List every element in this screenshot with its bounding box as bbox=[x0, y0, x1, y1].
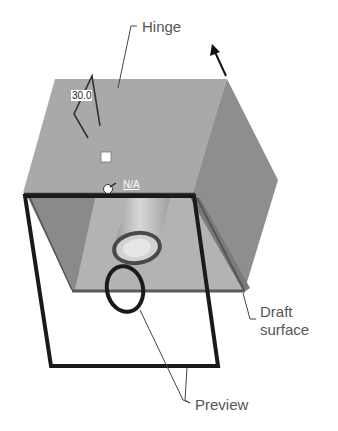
top-face bbox=[23, 79, 227, 193]
draft-angle-value[interactable]: 30.0 bbox=[71, 90, 92, 101]
preview-label: Preview bbox=[195, 396, 248, 413]
preview-leader-2 bbox=[185, 368, 190, 403]
hinge-leader bbox=[118, 26, 137, 88]
neutral-value[interactable]: N/A bbox=[122, 179, 141, 190]
draft-surface-leader bbox=[243, 293, 256, 319]
draft-surface-label-line2: surface bbox=[260, 321, 309, 338]
diagram-canvas bbox=[0, 0, 338, 431]
preview-leader bbox=[140, 310, 190, 403]
drag-handle[interactable] bbox=[101, 152, 111, 162]
hinge-label: Hinge bbox=[142, 18, 181, 35]
draft-diagram: Hinge Draft surface Preview 30.0 N/A bbox=[0, 0, 338, 431]
draft-surface-label-line1: Draft bbox=[260, 303, 293, 320]
pull-direction-arrow bbox=[210, 44, 226, 76]
